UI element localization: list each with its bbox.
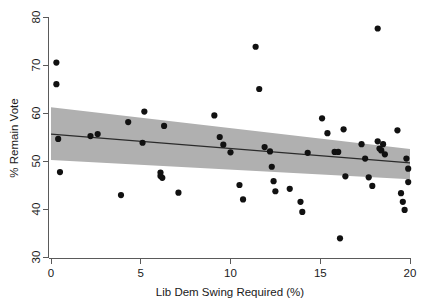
data-point — [272, 188, 278, 194]
data-point — [297, 199, 303, 205]
y-tick-label: 50 — [30, 155, 42, 168]
data-point — [405, 166, 411, 172]
data-point — [366, 174, 372, 180]
data-point — [141, 108, 147, 114]
data-point — [405, 179, 411, 185]
data-point — [337, 235, 343, 241]
data-point — [125, 119, 131, 125]
data-point — [380, 141, 386, 147]
data-point — [269, 164, 275, 170]
data-point — [342, 173, 348, 179]
data-point — [340, 126, 346, 132]
data-point — [256, 86, 262, 92]
data-point — [299, 209, 305, 215]
data-point — [87, 133, 93, 139]
data-point — [382, 151, 388, 157]
data-point — [227, 149, 233, 155]
y-tick-label: 60 — [30, 107, 42, 120]
x-tick-label: 5 — [138, 267, 144, 279]
data-point — [270, 178, 276, 184]
data-point — [400, 199, 406, 205]
y-tick-label: 30 — [30, 251, 42, 264]
data-point — [57, 169, 63, 175]
data-point — [287, 186, 293, 192]
y-tick-label: 80 — [30, 11, 42, 24]
data-point — [217, 134, 223, 140]
data-point — [358, 141, 364, 147]
data-point — [118, 192, 124, 198]
y-axis-title: % Remain Vote — [8, 98, 20, 177]
data-point — [139, 140, 145, 146]
scatter-plot-figure: 304050607080 05101520 Lib Dem Swing Requ… — [0, 0, 429, 303]
data-point — [402, 207, 408, 213]
x-tick-label: 15 — [314, 267, 327, 279]
data-point — [375, 138, 381, 144]
data-point — [53, 81, 59, 87]
y-tick-label: 70 — [30, 59, 42, 72]
x-tick-label: 10 — [224, 267, 237, 279]
data-point — [375, 25, 381, 31]
plot-canvas: 304050607080 05101520 Lib Dem Swing Requ… — [0, 0, 429, 303]
x-tick-label: 20 — [404, 267, 417, 279]
y-tick-label: 40 — [30, 203, 42, 216]
x-tick-label: 0 — [48, 267, 54, 279]
data-point — [362, 156, 368, 162]
data-point — [335, 149, 341, 155]
data-point — [161, 123, 167, 129]
data-point — [398, 190, 404, 196]
data-point — [267, 148, 273, 154]
data-point — [236, 182, 242, 188]
data-point — [324, 130, 330, 136]
data-point — [53, 60, 59, 66]
data-point — [369, 183, 375, 189]
data-point — [220, 142, 226, 148]
data-point — [319, 115, 325, 121]
data-point — [394, 127, 400, 133]
data-point — [240, 196, 246, 202]
data-point — [211, 112, 217, 118]
data-point — [159, 175, 165, 181]
data-point — [305, 150, 311, 156]
data-point — [403, 156, 409, 162]
data-point — [95, 131, 101, 137]
data-point — [175, 190, 181, 196]
data-point — [253, 44, 259, 50]
data-point — [262, 144, 268, 150]
data-point — [55, 136, 61, 142]
x-axis-title: Lib Dem Swing Required (%) — [156, 286, 304, 298]
